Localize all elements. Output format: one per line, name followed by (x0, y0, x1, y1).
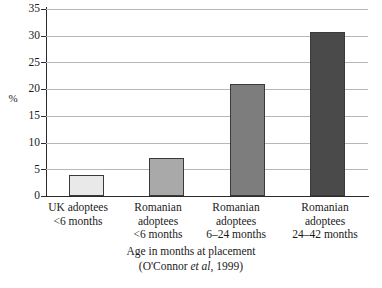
x-category-label-2-line-2: 6–24 months (188, 228, 284, 242)
x-category-label-0-line-0: UK adoptees (33, 201, 123, 215)
plot-area (46, 9, 368, 196)
y-tick-label-35: 35 (14, 3, 40, 14)
bar-romanian-adoptees-24-42-months (310, 32, 345, 196)
source-citation-prefix: (O'Connor (139, 260, 191, 272)
y-tick-label-15: 15 (14, 110, 40, 121)
y-tick-label-25: 25 (14, 57, 40, 68)
x-axis-line (46, 196, 369, 197)
y-tick-label-10: 10 (14, 137, 40, 148)
x-category-label-2: Romanian adoptees 6–24 months (188, 201, 284, 242)
x-category-label-3-line-2: 24–42 months (275, 228, 375, 242)
bar-uk-adoptees-under-6-months (69, 175, 104, 196)
source-citation: (O'Connor et al, 1999) (0, 259, 382, 273)
y-tick-label-0: 0 (14, 190, 40, 201)
y-tick-label-30: 30 (14, 30, 40, 41)
gridline-35 (46, 9, 368, 10)
x-category-label-3-line-1: adoptees (275, 215, 375, 229)
x-axis-title: Age in months at placement (0, 244, 382, 258)
x-category-label-2-line-1: adoptees (188, 215, 284, 229)
x-category-label-0-line-1: <6 months (33, 215, 123, 229)
source-citation-suffix: , 1999) (211, 260, 244, 272)
x-category-label-0: UK adoptees <6 months (33, 201, 123, 228)
source-citation-et-al: et al (190, 260, 210, 272)
y-tick-label-5: 5 (14, 164, 40, 175)
x-category-label-3-line-0: Romanian (275, 201, 375, 215)
x-category-label-2-line-0: Romanian (188, 201, 284, 215)
y-tick-label-20: 20 (14, 83, 40, 94)
bar-romanian-adoptees-6-24-months (230, 84, 265, 196)
x-category-label-3: Romanian adoptees 24–42 months (275, 201, 375, 242)
bar-chart-figure: % 35 30 25 20 15 10 5 0 UK adoptees <6 m… (0, 0, 382, 288)
bar-romanian-adoptees-under-6-months (149, 158, 184, 197)
